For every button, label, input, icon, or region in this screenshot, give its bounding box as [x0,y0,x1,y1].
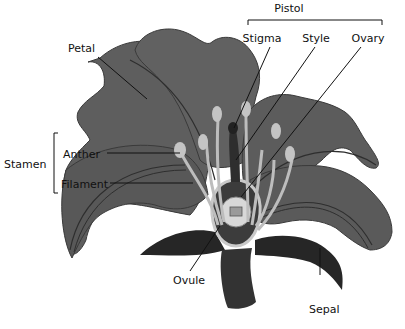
stigma [228,122,238,134]
label-filament: Filament [61,178,109,191]
label-ovary: Ovary [352,32,385,45]
stem [221,248,256,309]
label-stigma: Stigma [243,32,282,45]
label-petal: Petal [68,42,95,55]
label-anther: Anther [63,148,101,161]
label-stamen: Stamen [4,158,47,171]
label-pistol: Pistol [274,2,303,15]
label-style: Style [302,32,330,45]
sepal-left [140,230,225,255]
sepal-right [255,236,343,290]
label-ovule: Ovule [173,274,205,287]
label-sepal: Sepal [309,303,340,316]
pistol-bracket [248,20,382,25]
flower-diagram: Pistol Stigma Style Ovary Petal Stamen A… [0,0,405,329]
stamen-bracket [54,133,58,193]
